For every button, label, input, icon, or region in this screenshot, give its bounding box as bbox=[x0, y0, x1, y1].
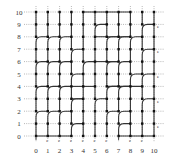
vertex-dot bbox=[129, 85, 131, 87]
path-turn bbox=[119, 124, 131, 136]
vertex-dot bbox=[141, 48, 143, 50]
vertex-dot bbox=[106, 122, 108, 124]
vertex-dot bbox=[153, 135, 155, 137]
vertex-dot bbox=[82, 85, 84, 87]
vertex-dot bbox=[47, 98, 49, 100]
vertex-dot bbox=[129, 48, 131, 50]
path-turn bbox=[36, 62, 48, 74]
path-turn bbox=[130, 74, 142, 86]
vertex-dot bbox=[94, 85, 96, 87]
vertex-dot bbox=[35, 11, 37, 13]
vertex-dot bbox=[117, 48, 119, 50]
vertex-dot bbox=[153, 122, 155, 124]
y-axis-label: 9 bbox=[17, 21, 21, 29]
vertex-dot bbox=[117, 36, 119, 38]
vertex-dot bbox=[117, 85, 119, 87]
vertex-dot bbox=[106, 85, 108, 87]
path-turn bbox=[83, 62, 95, 74]
vertex-dot bbox=[129, 98, 131, 100]
x-axis-label: 1 bbox=[46, 147, 50, 155]
vertex-dot bbox=[82, 98, 84, 100]
vertex-dot bbox=[117, 110, 119, 112]
vertex-dot bbox=[129, 36, 131, 38]
right-edge-marker: e bbox=[157, 99, 160, 104]
path-turn bbox=[48, 111, 60, 123]
path-turn bbox=[142, 74, 154, 86]
vertex-dot bbox=[47, 85, 49, 87]
path-turn bbox=[36, 111, 48, 123]
vertex-dot bbox=[35, 98, 37, 100]
vertex-dot bbox=[94, 60, 96, 62]
right-edge-marker: e bbox=[157, 124, 160, 129]
vertex-dot bbox=[58, 98, 60, 100]
vertex-dot bbox=[82, 122, 84, 124]
vertex-dot bbox=[153, 110, 155, 112]
vertex-dot bbox=[94, 36, 96, 38]
vertex-dot bbox=[106, 23, 108, 25]
vertex-dot bbox=[106, 48, 108, 50]
path-turn bbox=[107, 111, 119, 123]
vertex-dot bbox=[58, 73, 60, 75]
vertex-dot bbox=[141, 135, 143, 137]
vertex-dot bbox=[47, 11, 49, 13]
vertex-dot bbox=[153, 11, 155, 13]
vertex-dot bbox=[94, 135, 96, 137]
path-turn bbox=[48, 37, 60, 49]
path-turn bbox=[119, 37, 131, 49]
bottom-edge-marker: e bbox=[94, 138, 97, 143]
vertex-dot bbox=[129, 135, 131, 137]
vertex-dot bbox=[82, 48, 84, 50]
vertex-dot bbox=[141, 110, 143, 112]
vertex-dot bbox=[47, 110, 49, 112]
x-axis-label: 4 bbox=[81, 147, 85, 155]
path-turn bbox=[95, 99, 107, 111]
vertex-dot bbox=[58, 23, 60, 25]
path-turn bbox=[71, 49, 83, 61]
vertex-dot bbox=[70, 11, 72, 13]
bottom-edge-marker: e bbox=[46, 138, 49, 143]
path-turn bbox=[142, 99, 154, 111]
path-turn bbox=[107, 62, 119, 74]
vertex-dot bbox=[70, 122, 72, 124]
vertex-dot bbox=[129, 122, 131, 124]
x-axis-labels: 012345678910 bbox=[34, 147, 158, 155]
vertex-dot bbox=[141, 85, 143, 87]
vertex-dot bbox=[94, 11, 96, 13]
vertex-dot bbox=[117, 23, 119, 25]
vertex-dot bbox=[94, 110, 96, 112]
vertex-dot bbox=[106, 73, 108, 75]
x-axis-label: 10 bbox=[151, 147, 159, 155]
vertex-dot bbox=[58, 36, 60, 38]
vertex-dot bbox=[58, 11, 60, 13]
vertex-dot bbox=[82, 23, 84, 25]
vertex-dot bbox=[106, 11, 108, 13]
vertex-dot bbox=[82, 60, 84, 62]
vertex-dot bbox=[94, 48, 96, 50]
vertex-dot bbox=[141, 11, 143, 13]
vertex-dot bbox=[70, 23, 72, 25]
y-axis-label: 8 bbox=[17, 33, 21, 41]
vertex-dot bbox=[70, 48, 72, 50]
bottom-edge-marker: e bbox=[105, 138, 108, 143]
vertex-dot bbox=[129, 110, 131, 112]
vertex-dot bbox=[35, 36, 37, 38]
path-turn bbox=[36, 86, 48, 98]
vertex-dot bbox=[141, 122, 143, 124]
vertex-dot bbox=[106, 98, 108, 100]
vertex-dot bbox=[35, 60, 37, 62]
vertex-dot bbox=[153, 23, 155, 25]
vertex-dot bbox=[47, 73, 49, 75]
path-turn bbox=[48, 62, 60, 74]
vertex-dot bbox=[70, 73, 72, 75]
lattice-path-diagram: eeeeeeeeeeeee 012345678910 012345678910 bbox=[0, 0, 170, 156]
vertex-dot bbox=[58, 85, 60, 87]
path-turn bbox=[95, 24, 107, 36]
vertex-dot bbox=[35, 85, 37, 87]
vertex-dot bbox=[47, 60, 49, 62]
path-turn bbox=[119, 62, 131, 74]
vertex-dot bbox=[94, 73, 96, 75]
y-axis-label: 0 bbox=[17, 133, 21, 141]
path-turn bbox=[119, 86, 131, 98]
vertex-dot bbox=[58, 48, 60, 50]
vertex-dot bbox=[35, 73, 37, 75]
